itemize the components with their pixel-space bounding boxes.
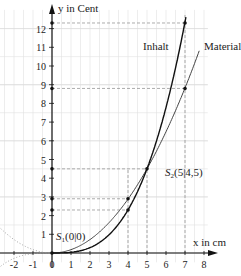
s1-label: S1(0|0): [56, 230, 86, 244]
svg-text:7: 7: [41, 117, 46, 128]
svg-text:10: 10: [36, 61, 46, 72]
svg-text:-2: -2: [10, 259, 18, 270]
svg-text:8: 8: [202, 259, 207, 270]
svg-text:1: 1: [69, 259, 74, 270]
grid: [0, 10, 208, 262]
inhalt-label: Inhalt: [143, 40, 169, 52]
svg-text:6: 6: [41, 136, 46, 147]
svg-text:5: 5: [41, 155, 46, 166]
s2-label: S2(5|4,5): [165, 166, 203, 180]
chart: -2-1012345678123456789101112 y in Cent x…: [0, 0, 241, 276]
svg-text:0: 0: [50, 259, 55, 270]
material-label: Material: [204, 40, 241, 52]
svg-text:3: 3: [107, 259, 112, 270]
svg-text:4: 4: [41, 173, 46, 184]
curves: [1, 17, 200, 266]
svg-text:6: 6: [164, 259, 169, 270]
svg-text:4: 4: [126, 259, 131, 270]
svg-text:2: 2: [88, 259, 93, 270]
y-axis-label: y in Cent: [58, 2, 98, 14]
svg-text:9: 9: [41, 80, 46, 91]
svg-text:12: 12: [36, 24, 46, 35]
svg-text:1: 1: [41, 229, 46, 240]
svg-text:11: 11: [36, 42, 46, 53]
svg-text:-1: -1: [29, 259, 37, 270]
x-axis-label: x in cm: [193, 236, 226, 248]
svg-text:5: 5: [145, 259, 150, 270]
svg-text:2: 2: [41, 211, 46, 222]
svg-text:3: 3: [41, 192, 46, 203]
svg-text:7: 7: [183, 259, 188, 270]
svg-text:8: 8: [41, 98, 46, 109]
